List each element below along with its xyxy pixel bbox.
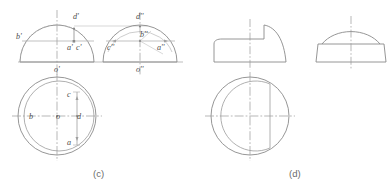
- front-view-cut-arc: [20, 25, 74, 62]
- top-view-c: c b o d a: [12, 72, 102, 161]
- side-view-c: d'' b'' c'' a'' o'': [103, 12, 177, 75]
- label-c-prime: c': [76, 43, 82, 52]
- label-d: d: [77, 112, 82, 121]
- technical-drawing-figure: d' b' a' c' o' d'' b'' c'' a'' o'': [0, 0, 390, 189]
- label-o-dblprime: o'': [136, 65, 144, 74]
- front-view-d: [214, 19, 286, 70]
- caption-c: (c): [93, 168, 104, 179]
- top-view-d: [205, 72, 295, 161]
- label-d-dblprime: d'': [136, 12, 144, 21]
- caption-d: (d): [289, 168, 301, 179]
- label-b: b: [29, 112, 33, 121]
- label-a-prime: a': [67, 43, 73, 52]
- side-view-d: [316, 16, 386, 70]
- arrowhead-chord-bottom: [76, 137, 79, 141]
- label-b-dblprime: b'': [140, 30, 148, 39]
- label-a-dblprime: a'': [157, 43, 165, 52]
- point-marker-d-prime: [73, 27, 75, 29]
- drawing-canvas: d' b' a' c' o' d'' b'' c'' a'' o'': [0, 0, 390, 189]
- label-a: a: [67, 138, 71, 147]
- label-c: c: [67, 90, 71, 99]
- point-marker-b-dblprime: [139, 40, 141, 42]
- label-b-prime: b': [16, 32, 22, 41]
- point-marker-d-dblprime: [139, 25, 141, 27]
- arrowhead-chord-top: [76, 96, 79, 100]
- point-marker-ac-prime: [73, 40, 76, 43]
- label-o: o: [56, 112, 60, 121]
- label-d-prime: d': [73, 12, 79, 21]
- label-c-dblprime: c'': [107, 43, 114, 52]
